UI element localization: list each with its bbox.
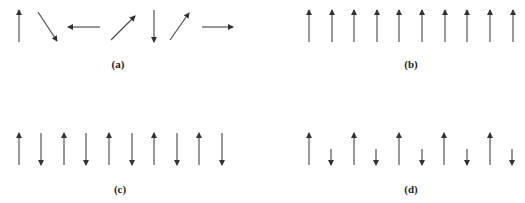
panel-a-label: (a) bbox=[112, 58, 125, 71]
panel-b bbox=[309, 10, 513, 42]
panel-c-label: (c) bbox=[114, 183, 127, 196]
spin-arrow-icon bbox=[170, 13, 189, 40]
spin-arrow-icon bbox=[111, 16, 135, 40]
panel-a bbox=[19, 10, 233, 42]
panel-d-label: (d) bbox=[404, 183, 418, 196]
spin-arrangement-figure: (a) (b) (c) (d) bbox=[0, 0, 525, 203]
panel-b-label: (b) bbox=[404, 58, 418, 71]
spin-arrow-icon bbox=[38, 12, 57, 41]
panel-c bbox=[19, 133, 222, 165]
panel-d bbox=[309, 133, 512, 165]
